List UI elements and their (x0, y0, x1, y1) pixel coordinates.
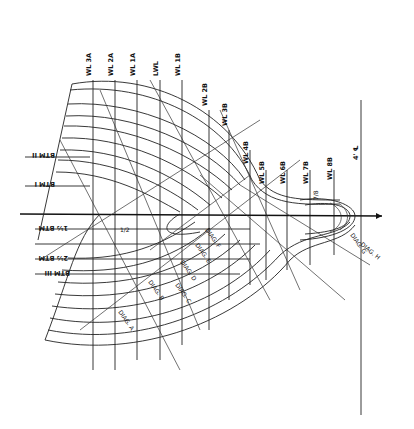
wl-7b-label: WL 7B (302, 161, 310, 184)
wl-4b-label: WL 4B (242, 141, 250, 164)
body-plan-drawing: WL 3A WL 2A WL 1A LWL WL 1B WL 2B WL 3B … (0, 0, 414, 429)
2-5-btm-label: 2½ BTM (39, 254, 68, 262)
wl-6b-label: WL 6B (279, 161, 287, 184)
wl-1a-label: WL 1A (129, 53, 137, 76)
waterline-labels: WL 3A WL 2A WL 1A LWL WL 1B WL 2B WL 3B … (85, 53, 360, 184)
diagonal-labels: DIAG. A DIAG. B DIAG. C DIAG. D DIAG. E … (117, 190, 382, 332)
btm-iii-label: BTM III (45, 269, 70, 277)
diag-label: DIAG. A (117, 309, 136, 333)
wl-3b-label: WL 3B (221, 103, 229, 126)
diag-label: DIAG. C (174, 282, 193, 305)
wl-3a-label: WL 3A (85, 53, 93, 76)
wl-2b-label: WL 2B (201, 83, 209, 106)
btm-ii-label: BTM II (32, 151, 55, 159)
fraction-label: 7/8 (312, 190, 319, 200)
wl-5b-label: WL 5B (258, 161, 266, 184)
fraction-label: 1/2 (120, 226, 130, 233)
btm-i-label: BTM I (34, 180, 55, 188)
wl-2a-label: WL 2A (107, 53, 115, 76)
lwl-label: LWL (152, 61, 160, 76)
diag-label: DIAG. E (194, 242, 213, 265)
1-5-btm-label: 1½ BTM (39, 224, 68, 232)
diag-label: DIAG. B (147, 279, 166, 302)
centerline-label: 4' ℄ (352, 145, 360, 160)
wl-8b-label: WL 8B (326, 157, 334, 180)
wl-1b-label: WL 1B (174, 53, 182, 76)
